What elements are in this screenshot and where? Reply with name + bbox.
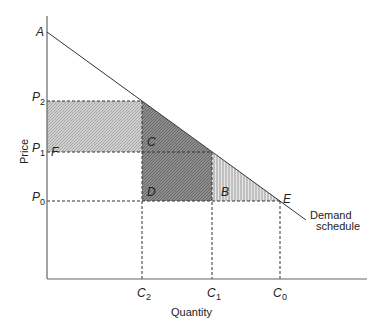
svg-text:2: 2: [146, 292, 151, 302]
svg-text:C: C: [137, 286, 146, 300]
svg-text:1: 1: [216, 292, 221, 302]
svg-text:P: P: [32, 190, 40, 204]
quantity-tick-c2: C 2: [137, 286, 151, 302]
price-tick-p1: P 1: [32, 141, 45, 158]
price-tick-p2: P 2: [32, 90, 45, 107]
region-b-label: B: [221, 185, 229, 199]
y-axis-title: Price: [18, 139, 30, 164]
point-a-label: A: [35, 25, 44, 39]
demand-diagram: A E F C D B P 2 P 1 P 0 C 2 C 1 C 0 Quan…: [0, 0, 383, 327]
svg-text:C: C: [207, 286, 216, 300]
svg-text:P: P: [32, 90, 40, 104]
price-tick-p0: P 0: [32, 190, 45, 207]
svg-text:1: 1: [40, 148, 45, 158]
svg-text:0: 0: [40, 197, 45, 207]
region-c-label: C: [147, 135, 156, 149]
quantity-tick-c1: C 1: [207, 286, 221, 302]
svg-text:2: 2: [40, 97, 45, 107]
demand-curve-label-line2: schedule: [316, 220, 360, 232]
svg-text:C: C: [273, 286, 282, 300]
quantity-tick-c0: C 0: [273, 286, 287, 302]
svg-text:P: P: [32, 141, 40, 155]
point-e-label: E: [283, 192, 292, 206]
region-d-label: D: [147, 185, 156, 199]
x-axis-title: Quantity: [171, 306, 212, 318]
region-f-label: F: [51, 145, 59, 159]
svg-text:0: 0: [282, 292, 287, 302]
region-f: [47, 101, 142, 152]
